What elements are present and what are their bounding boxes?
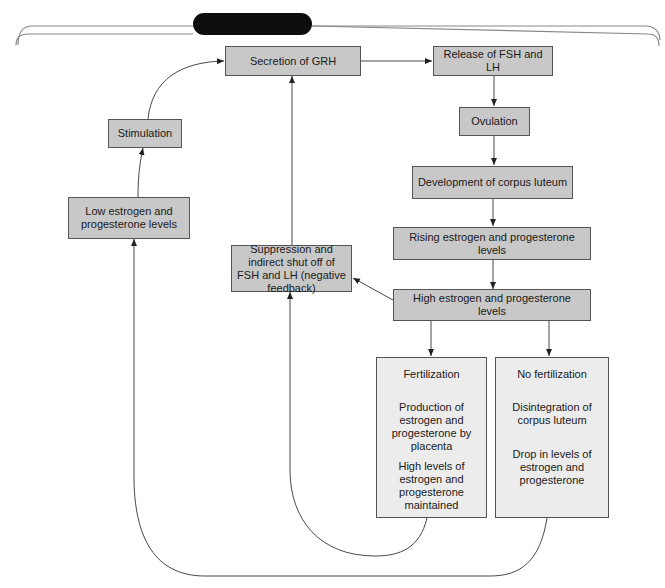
node-corpus-luteum-development: Development of corpus luteum (412, 166, 573, 199)
header-bracket (16, 26, 659, 46)
node-label: Rising estrogen and progesterone levels (398, 231, 586, 257)
node-high-levels: High estrogen and progesterone levels (393, 289, 591, 321)
no-fertilization-column: No fertilization Disintegration of corpu… (495, 357, 609, 518)
no-fertilization-step: Drop in levels of estrogen and progester… (496, 448, 608, 487)
fertilization-column: Fertilization Production of estrogen and… (376, 357, 487, 518)
no-fertilization-step: Disintegration of corpus luteum (496, 401, 608, 427)
node-ovulation: Ovulation (459, 107, 530, 136)
arrow-low-to-stimulation (138, 148, 143, 197)
fertilization-step: Production of estrogen and progesterone … (377, 401, 486, 453)
fertilization-step: High levels of estrogen and progesterone… (377, 460, 486, 512)
node-label: Suppression and indirect shut off of FSH… (236, 243, 347, 295)
node-label: Ovulation (471, 115, 517, 128)
node-label: Development of corpus luteum (418, 176, 567, 189)
node-label: Secretion of GRH (250, 55, 336, 68)
fertilization-step: Fertilization (377, 368, 486, 381)
node-low-levels: Low estrogen and progesterone levels (68, 197, 190, 239)
node-rising-levels: Rising estrogen and progesterone levels (393, 227, 591, 260)
node-stimulation: Stimulation (108, 119, 182, 148)
node-secretion-grh: Secretion of GRH (225, 46, 361, 76)
node-label: Low estrogen and progesterone levels (73, 205, 185, 231)
diagram-canvas: Secretion of GRH Release of FSH and LH O… (0, 0, 665, 588)
node-suppression: Suppression and indirect shut off of FSH… (231, 245, 352, 292)
arrow-stimulation-to-grh (148, 61, 224, 119)
no-fertilization-step: No fertilization (496, 368, 608, 381)
arrow-high-to-suppression (353, 278, 393, 300)
node-label: Stimulation (118, 127, 172, 140)
title-banner (193, 13, 312, 35)
node-label: High estrogen and progesterone levels (398, 292, 586, 318)
node-label: Release of FSH and LH (438, 48, 548, 74)
node-release-fsh-lh: Release of FSH and LH (433, 46, 553, 76)
